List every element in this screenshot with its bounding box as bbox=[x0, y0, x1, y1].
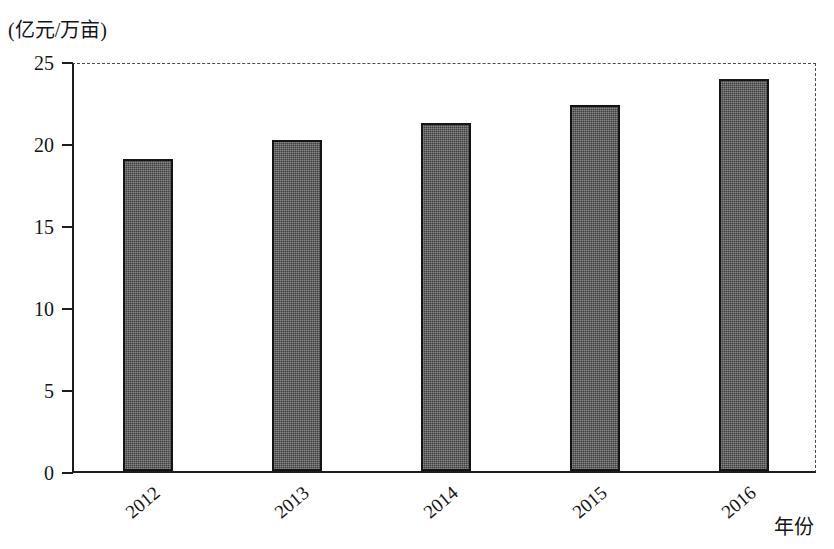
x-axis-tick-label: 2013 bbox=[271, 483, 312, 522]
bar bbox=[719, 79, 769, 471]
y-axis-tick-label: 10 bbox=[8, 299, 54, 319]
bar bbox=[123, 159, 173, 471]
y-axis-tick-label: 25 bbox=[8, 53, 54, 73]
bar bbox=[421, 123, 471, 471]
x-axis-title: 年份 bbox=[774, 517, 814, 537]
y-axis-tick-label: 20 bbox=[8, 135, 54, 155]
x-axis-tick-label: 2016 bbox=[718, 483, 759, 522]
bar bbox=[570, 105, 620, 471]
y-axis-tick-label: 5 bbox=[8, 381, 54, 401]
x-axis-tick-label: 2012 bbox=[122, 483, 163, 522]
y-axis-tick bbox=[62, 62, 73, 64]
y-axis-unit-label: (亿元/万亩) bbox=[8, 18, 107, 42]
y-axis-tick-label: 15 bbox=[8, 217, 54, 237]
y-axis-tick bbox=[62, 472, 73, 474]
x-axis-tick-label: 2014 bbox=[420, 483, 461, 522]
y-axis-tick-label: 0 bbox=[8, 463, 54, 483]
y-axis-tick bbox=[62, 226, 73, 228]
x-axis-tick-label: 2015 bbox=[569, 483, 610, 522]
plot-area bbox=[72, 63, 816, 473]
y-axis-tick bbox=[62, 144, 73, 146]
bar-chart: (亿元/万亩) 0510152025 20122013201420152016 … bbox=[0, 0, 834, 549]
bar bbox=[272, 140, 322, 471]
y-axis-tick bbox=[62, 308, 73, 310]
y-axis-tick bbox=[62, 390, 73, 392]
